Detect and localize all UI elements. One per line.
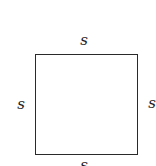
side-label-left: s [14,97,28,112]
side-label-top: s [77,33,91,48]
side-label-right: s [145,96,156,111]
side-label-bottom: s [77,158,91,166]
square-shape [35,54,138,155]
